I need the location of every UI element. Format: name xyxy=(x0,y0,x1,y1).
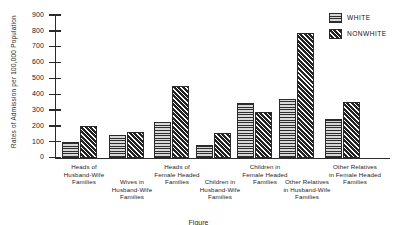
legend-swatch-white-icon xyxy=(329,13,342,23)
y-tick-label: 200 xyxy=(14,122,44,129)
bar-nonwhite xyxy=(214,133,231,158)
bar-white xyxy=(154,122,171,158)
bar-white xyxy=(196,145,213,158)
legend-label-nonwhite: NONWHITE xyxy=(347,30,387,37)
bar-nonwhite xyxy=(255,112,272,158)
bar-white xyxy=(279,99,296,158)
chart-legend: WHITE NONWHITE xyxy=(329,11,387,43)
y-tick-label: 700 xyxy=(14,42,44,49)
legend-label-white: WHITE xyxy=(347,14,371,21)
y-tick-label: 400 xyxy=(14,90,44,97)
bar-white xyxy=(62,142,79,158)
y-tick-label: 600 xyxy=(14,58,44,65)
bar-nonwhite xyxy=(297,33,314,158)
bar-nonwhite xyxy=(343,102,360,158)
bar-white xyxy=(109,135,126,158)
bar-nonwhite xyxy=(127,132,144,158)
figure-caption: Figure xyxy=(0,219,397,225)
y-tick-label: 300 xyxy=(14,106,44,113)
legend-swatch-nonwhite-icon xyxy=(329,29,342,39)
bar-nonwhite xyxy=(172,86,189,158)
bar-white xyxy=(237,103,254,158)
category-label: Other Relatives in Female Headed Familie… xyxy=(319,163,391,186)
chart-figure: Rates of Admission per 100,000 Populatio… xyxy=(0,0,397,225)
legend-item-white: WHITE xyxy=(329,11,387,24)
legend-item-nonwhite: NONWHITE xyxy=(329,27,387,40)
y-tick-label: 0 xyxy=(14,153,44,160)
bar-nonwhite xyxy=(80,126,97,158)
bar-white xyxy=(325,119,342,158)
y-tick-label: 500 xyxy=(14,74,44,81)
y-tick-label: 100 xyxy=(14,138,44,145)
y-tick-label: 900 xyxy=(14,11,44,18)
y-tick-label: 800 xyxy=(14,27,44,34)
